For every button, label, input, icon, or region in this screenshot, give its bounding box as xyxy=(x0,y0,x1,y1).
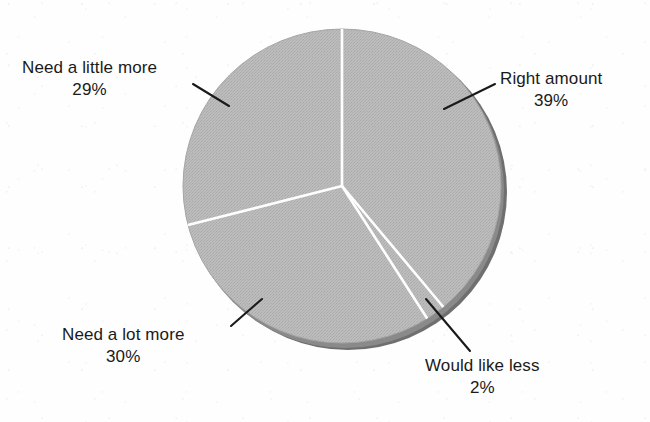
slice-label-need-lot-more: Need a lot more 30% xyxy=(62,324,184,368)
slice-label-would-like-less-value: 2% xyxy=(425,377,540,399)
slice-label-would-like-less-name: Would like less xyxy=(425,355,540,377)
slice-label-right-amount-name: Right amount xyxy=(500,68,602,90)
pie-chart-figure: Need a little more 29% Right amount 39% … xyxy=(0,0,650,422)
slice-label-would-like-less: Would like less 2% xyxy=(425,355,540,399)
slice-label-right-amount-value: 39% xyxy=(500,90,602,112)
slice-label-need-little-more: Need a little more 29% xyxy=(22,57,157,101)
slice-label-need-little-more-value: 29% xyxy=(22,79,157,101)
slice-label-need-lot-more-value: 30% xyxy=(62,346,184,368)
slice-label-right-amount: Right amount 39% xyxy=(500,68,602,112)
slice-label-need-lot-more-name: Need a lot more xyxy=(62,324,184,346)
slice-label-need-little-more-name: Need a little more xyxy=(22,57,157,79)
